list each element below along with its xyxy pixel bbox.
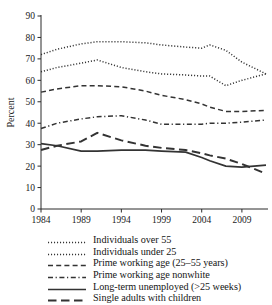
legend-item[interactable]: Individuals under 25	[48, 246, 272, 258]
legend-line-swatch	[48, 292, 86, 303]
legend-label: Prime working age (25–55 years)	[93, 257, 228, 268]
chart-legend: Individuals over 55Individuals under 25P…	[0, 232, 272, 305]
y-tick-label: 70	[26, 54, 36, 64]
y-tick-label: 90	[26, 11, 36, 21]
series-line	[41, 133, 266, 174]
legend-line-swatch	[48, 234, 86, 245]
axes-group	[41, 15, 268, 209]
y-tick-label: 80	[26, 33, 36, 43]
legend-line-swatch	[48, 281, 86, 292]
series-line	[41, 42, 266, 74]
legend-item[interactable]: Prime working age (25–55 years)	[48, 257, 272, 269]
legend-item[interactable]: Long-term unemployed (>25 weeks)	[48, 280, 272, 292]
y-tick-label: 0	[30, 204, 35, 214]
y-tick-label: 60	[26, 76, 36, 86]
legend-line-swatch	[48, 246, 86, 257]
legend-swatch-icon	[48, 295, 86, 305]
y-tick-label: 10	[26, 183, 36, 193]
legend-line-swatch	[48, 257, 86, 268]
x-tick-label: 1994	[112, 215, 131, 225]
line-chart-svg: 0102030405060708090 19841989199419992004…	[0, 0, 272, 232]
legend-item[interactable]: Individuals over 55	[48, 234, 272, 246]
plot-area: 0102030405060708090 19841989199419992004…	[0, 0, 272, 232]
series-line	[41, 60, 266, 86]
y-axis-title: Percent	[5, 97, 16, 127]
legend-label: Single adults with children	[93, 292, 201, 303]
legend-label: Prime working age nonwhite	[93, 269, 210, 280]
legend-label: Long-term unemployed (>25 weeks)	[93, 281, 241, 292]
x-tick-label: 2004	[192, 215, 211, 225]
x-tick-label: 1999	[152, 215, 171, 225]
y-tick-label: 40	[26, 119, 36, 129]
legend-label: Individuals under 25	[93, 246, 176, 257]
legend-line-swatch	[48, 269, 86, 280]
x-tick-label: 2009	[232, 215, 251, 225]
y-tick-label: 20	[26, 162, 36, 172]
series-line	[41, 86, 266, 112]
series-line	[41, 116, 266, 129]
y-tick-label: 50	[26, 97, 36, 107]
series-lines	[41, 42, 266, 174]
y-axis-ticks: 0102030405060708090	[26, 11, 42, 214]
x-tick-label: 1989	[72, 215, 91, 225]
x-tick-label: 1984	[32, 215, 51, 225]
legend-item[interactable]: Single adults with children	[48, 292, 272, 304]
y-tick-label: 30	[26, 140, 36, 150]
x-axis-ticks: 198419891994199920042009	[32, 209, 252, 225]
chart-figure: 0102030405060708090 19841989199419992004…	[0, 0, 272, 305]
legend-label: Individuals over 55	[93, 234, 171, 245]
legend-item[interactable]: Prime working age nonwhite	[48, 269, 272, 281]
